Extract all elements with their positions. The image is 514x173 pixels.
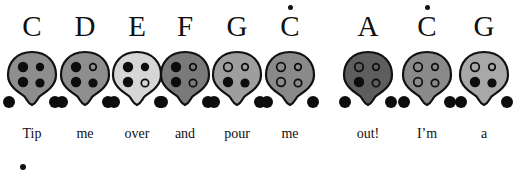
lyric-word: me (55, 126, 115, 142)
note-label: D (60, 10, 110, 42)
hole-open-icon (431, 79, 438, 86)
thumb-hole-icon (455, 96, 467, 108)
thumb-hole-icon (398, 96, 410, 108)
hole-open-icon (90, 64, 97, 71)
hole-open-icon (489, 64, 496, 71)
lyric-word: Tip (2, 126, 62, 142)
thumb-hole-icon (501, 96, 513, 108)
hole-covered-icon (36, 63, 44, 71)
thumb-hole-icon (261, 96, 273, 108)
note-label: C (7, 10, 57, 42)
hole-covered-icon (141, 63, 149, 71)
hole-open-icon (277, 78, 286, 87)
hole-covered-icon (223, 77, 233, 87)
hole-open-icon (242, 64, 249, 71)
note-label: E (112, 10, 162, 42)
hole-open-icon (414, 78, 423, 87)
list-bullet (20, 164, 26, 170)
octave-dot-icon (425, 5, 430, 10)
lyric-word: I’m (397, 126, 457, 142)
hole-covered-icon (171, 62, 181, 72)
hole-covered-icon (123, 62, 133, 72)
thumb-hole-icon (156, 96, 168, 108)
hole-open-icon (189, 79, 196, 86)
ocarina-icon (258, 50, 322, 110)
lyric-word: and (155, 126, 215, 142)
thumb-hole-icon (339, 96, 351, 108)
hole-open-icon (295, 64, 302, 71)
hole-covered-icon (71, 77, 81, 87)
hole-covered-icon (35, 78, 44, 87)
lyric-word: out! (338, 126, 398, 142)
hole-open-icon (141, 79, 148, 86)
hole-covered-icon (88, 78, 97, 87)
note-label: A (343, 10, 393, 42)
hole-open-icon (224, 63, 233, 72)
hole-covered-icon (18, 62, 28, 72)
lyric-word: me (260, 126, 320, 142)
hole-covered-icon (123, 77, 133, 87)
hole-open-icon (190, 64, 197, 71)
hole-open-icon (372, 79, 379, 86)
note-label: C (265, 10, 315, 42)
hole-covered-icon (18, 77, 28, 87)
lyric-word: a (454, 126, 514, 142)
hole-open-icon (355, 63, 364, 72)
hole-covered-icon (240, 78, 249, 87)
hole-covered-icon (354, 77, 364, 87)
thumb-hole-icon (307, 96, 319, 108)
hole-open-icon (277, 63, 286, 72)
hole-open-icon (294, 79, 301, 86)
ocarina-icon (395, 50, 459, 110)
hole-covered-icon (470, 77, 480, 87)
hole-covered-icon (487, 78, 496, 87)
hole-covered-icon (71, 62, 81, 72)
hole-covered-icon (171, 77, 181, 87)
thumb-hole-icon (208, 96, 220, 108)
note-label: F (160, 10, 210, 42)
hole-open-icon (471, 63, 480, 72)
thumb-hole-icon (3, 96, 15, 108)
ocarina-icon (336, 50, 400, 110)
note-label: G (212, 10, 262, 42)
octave-dot-icon (288, 5, 293, 10)
thumb-hole-icon (56, 96, 68, 108)
note-label: C (402, 10, 452, 42)
lyric-word: pour (207, 126, 267, 142)
ocarina-icon (452, 50, 514, 110)
thumb-hole-icon (108, 96, 120, 108)
note-label: G (459, 10, 509, 42)
hole-open-icon (373, 64, 380, 71)
hole-open-icon (414, 63, 423, 72)
hole-open-icon (432, 64, 439, 71)
